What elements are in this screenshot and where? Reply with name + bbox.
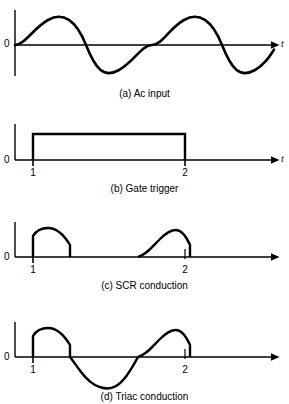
panel-gate-trigger: 0 t 1 2 (b) Gate trigger [0, 105, 289, 203]
x-axis-arrowhead-icon [271, 41, 280, 49]
zero-label-b: 0 [4, 155, 10, 165]
time-axis-label-b: t [281, 154, 284, 164]
triac-negative-lobe-trace [70, 357, 138, 388]
scr-hump-2-trace [138, 230, 190, 257]
triac-positive-hump-2-trace [138, 330, 190, 357]
x-axis-arrowhead-icon [271, 253, 280, 261]
x-axis-arrowhead-icon [271, 353, 280, 361]
tick-label-2-b: 2 [178, 168, 192, 178]
tick-label-1-d: 1 [26, 365, 40, 375]
waveform-figure: 0 t (a) Ac input 0 t 1 2 (b) Gate trigge… [0, 0, 289, 404]
caption-a: (a) Ac input [0, 88, 289, 100]
x-axis-arrowhead-icon [271, 156, 280, 164]
tick-label-2-d: 2 [178, 365, 192, 375]
panel-ac-input: 0 t (a) Ac input [0, 0, 289, 105]
panel-scr-conduction: 0 1 2 (c) SCR conduction [0, 203, 289, 303]
tick-label-1-b: 1 [26, 168, 40, 178]
scr-hump-1-trace [33, 228, 70, 257]
time-axis-label-a: t [281, 39, 284, 49]
zero-label-d: 0 [4, 352, 10, 362]
caption-d: (d) Triac conduction [0, 391, 289, 403]
tick-label-2-c: 2 [178, 265, 192, 275]
panel-triac-conduction: 0 1 2 (d) Triac conduction [0, 303, 289, 404]
caption-c: (c) SCR conduction [0, 280, 289, 292]
zero-label-a: 0 [4, 39, 10, 49]
triac-conduction-plot [0, 303, 289, 404]
tick-label-1-c: 1 [26, 265, 40, 275]
caption-b: (b) Gate trigger [0, 183, 289, 195]
triac-positive-hump-1-trace [33, 328, 70, 357]
zero-label-c: 0 [4, 252, 10, 262]
gate-pulse-trace [33, 134, 185, 160]
